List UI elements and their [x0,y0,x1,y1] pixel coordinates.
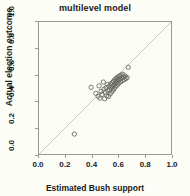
x-tick-label: 0.4 [78,160,106,169]
x-tick-mark [38,155,39,158]
x-axis-label: Estimated Bush support [0,183,190,193]
data-point [97,84,101,88]
y-tick-label: 0.2 [7,105,16,133]
y-tick-label: 0.0 [7,132,16,160]
x-tick-mark [118,155,119,158]
data-point [126,65,130,69]
scatter-chart: multilevel model Actual election outcome… [0,0,190,196]
x-tick-label: 1.0 [158,160,186,169]
x-tick-mark [65,155,66,158]
data-points [72,65,130,136]
x-tick-label: 0.0 [24,160,52,169]
x-tick-label: 0.2 [51,160,79,169]
x-tick-label: 0.8 [131,160,159,169]
y-tick-label: 0.4 [7,78,16,106]
x-tick-mark [172,155,173,158]
y-tick-label: 0.6 [7,51,16,79]
y-tick-label: 1.0 [7,0,16,26]
data-point [101,80,105,84]
x-tick-mark [145,155,146,158]
x-tick-mark [92,155,93,158]
data-point [72,132,76,136]
plot-frame [38,21,172,155]
plot-area [39,22,171,154]
x-tick-label: 0.6 [104,160,132,169]
data-point [89,85,93,89]
chart-title: multilevel model [0,3,190,13]
y-tick-mark [35,155,38,156]
identity-reference-line [39,22,171,154]
y-tick-label: 0.8 [7,24,16,52]
